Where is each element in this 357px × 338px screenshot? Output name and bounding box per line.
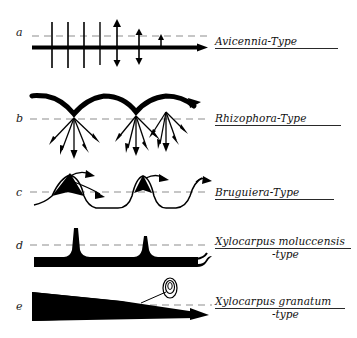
type-label-c: Bruguiera-Type bbox=[214, 186, 299, 198]
figure-background bbox=[0, 0, 357, 338]
row-letter-d: d bbox=[16, 239, 23, 252]
figure-root: a bbox=[0, 0, 357, 338]
dispersal-type-figure: a bbox=[0, 0, 357, 338]
type-label-e-line2: -type bbox=[272, 308, 299, 320]
row-letter-c: c bbox=[16, 186, 22, 199]
row-letter-b: b bbox=[16, 112, 23, 125]
type-label-e-line1: Xylocarpus granatum bbox=[214, 295, 331, 307]
row-letter-a: a bbox=[16, 26, 23, 39]
type-label-d-line1: Xylocarpus moluccensis bbox=[214, 235, 345, 247]
row-letter-e: e bbox=[16, 300, 23, 313]
type-label-b: Rhizophora-Type bbox=[214, 112, 307, 124]
type-label-d-line2: -type bbox=[272, 248, 299, 260]
type-label-a: Avicennia-Type bbox=[214, 35, 297, 47]
